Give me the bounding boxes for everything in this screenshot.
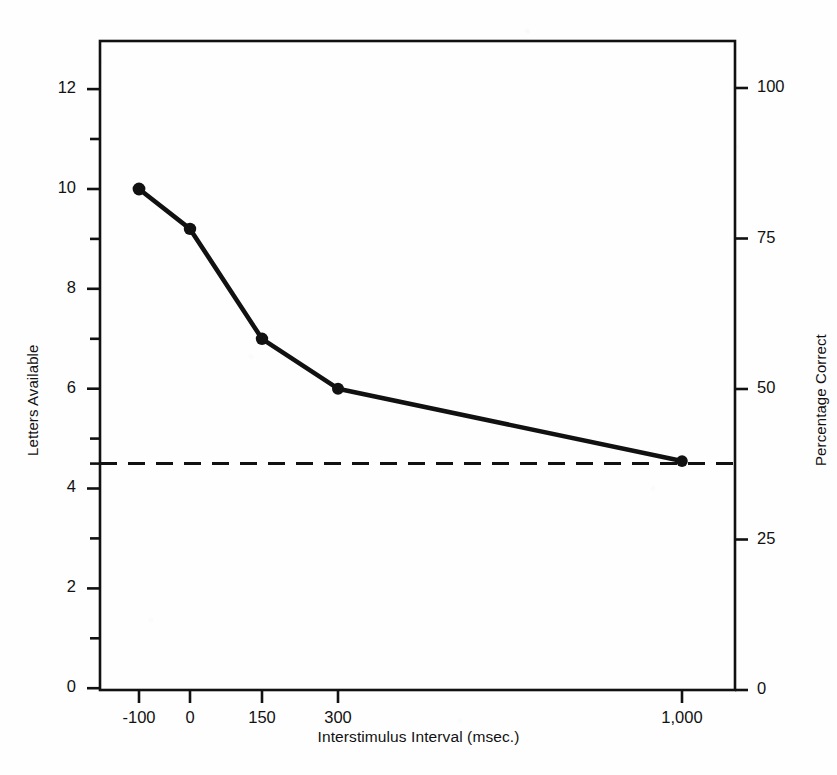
data-point-markers [133, 183, 688, 467]
bottom-axis-tick-label: 1,000 [637, 708, 727, 727]
data-point [676, 455, 688, 467]
y-axis-title-right: Percentage Correct [812, 334, 829, 466]
data-point [256, 333, 268, 345]
right-axis-tick-label: 75 [757, 228, 817, 247]
plot-frame [100, 41, 735, 690]
y-axis-title-left: Letters Available [24, 345, 41, 457]
left-axis-tick-label: 4 [28, 477, 76, 496]
left-axis-tick-label: 12 [28, 78, 76, 97]
data-point [133, 183, 146, 196]
left-axis-tick-label: 2 [28, 577, 76, 596]
x-axis-title: Interstimulus Interval (msec.) [0, 728, 837, 746]
data-point [332, 383, 344, 395]
bottom-axis-tick-label: 300 [298, 708, 378, 727]
left-axis-tick-label: 8 [28, 278, 76, 297]
data-point [184, 223, 196, 235]
chart-plot-area [0, 0, 837, 775]
right-axis-ticks [735, 88, 748, 690]
left-axis-tick-label: 10 [28, 178, 76, 197]
data-series-line [139, 189, 682, 461]
right-axis-tick-label: 25 [757, 529, 817, 548]
right-axis-tick-label: 0 [757, 679, 817, 698]
bottom-axis-tick-label: 0 [150, 708, 230, 727]
right-axis-tick-label: 100 [757, 77, 817, 96]
left-axis-tick-label: 0 [28, 677, 76, 696]
right-axis-tick-label: 50 [757, 378, 817, 397]
left-axis-major-ticks [87, 89, 100, 688]
bottom-axis-tick-label: 150 [222, 708, 302, 727]
figure-canvas: 12 10 8 6 4 2 0 100 75 50 25 0 -100 0 15… [0, 0, 837, 775]
bottom-axis-ticks [139, 690, 682, 703]
